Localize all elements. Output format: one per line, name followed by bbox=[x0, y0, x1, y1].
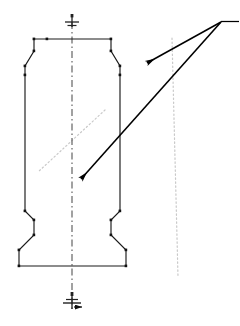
engineering-drawing bbox=[0, 0, 240, 326]
leader-lower bbox=[81, 22, 221, 179]
datum-bottom-dot bbox=[71, 292, 74, 296]
datum-symbol-bottom bbox=[63, 292, 82, 309]
technical-drawing-canvas bbox=[0, 0, 240, 326]
datum-symbol-top bbox=[65, 14, 79, 27]
section-lines-group bbox=[38, 38, 178, 277]
leaders-group bbox=[81, 22, 239, 180]
leader-upper bbox=[147, 22, 221, 63]
datum-top-dot bbox=[71, 14, 74, 17]
